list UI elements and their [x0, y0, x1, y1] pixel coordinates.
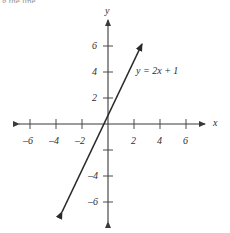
plotted-line [62, 44, 142, 212]
y-tick-label--4: –4 [88, 171, 98, 181]
coordinate-plane-svg [0, 0, 230, 233]
equation-annotation: y = 2x + 1 [136, 66, 178, 76]
y-tick-label-4: 4 [92, 67, 97, 77]
x-axis-label: x [213, 118, 217, 128]
x-tick-label--6: –6 [23, 136, 33, 146]
x-tick-label-4: 4 [157, 136, 162, 146]
x-tick-label-6: 6 [183, 136, 188, 146]
y-axis-label: y [105, 6, 109, 16]
x-tick-label--4: –4 [49, 136, 59, 146]
y-tick-label-2: 2 [92, 93, 97, 103]
graph-figure: g the line. [0, 0, 230, 233]
y-tick-label--6: –6 [88, 197, 98, 207]
x-tick-label-2: 2 [131, 136, 136, 146]
y-tick-label-6: 6 [92, 41, 97, 51]
x-tick-label--2: –2 [75, 136, 85, 146]
